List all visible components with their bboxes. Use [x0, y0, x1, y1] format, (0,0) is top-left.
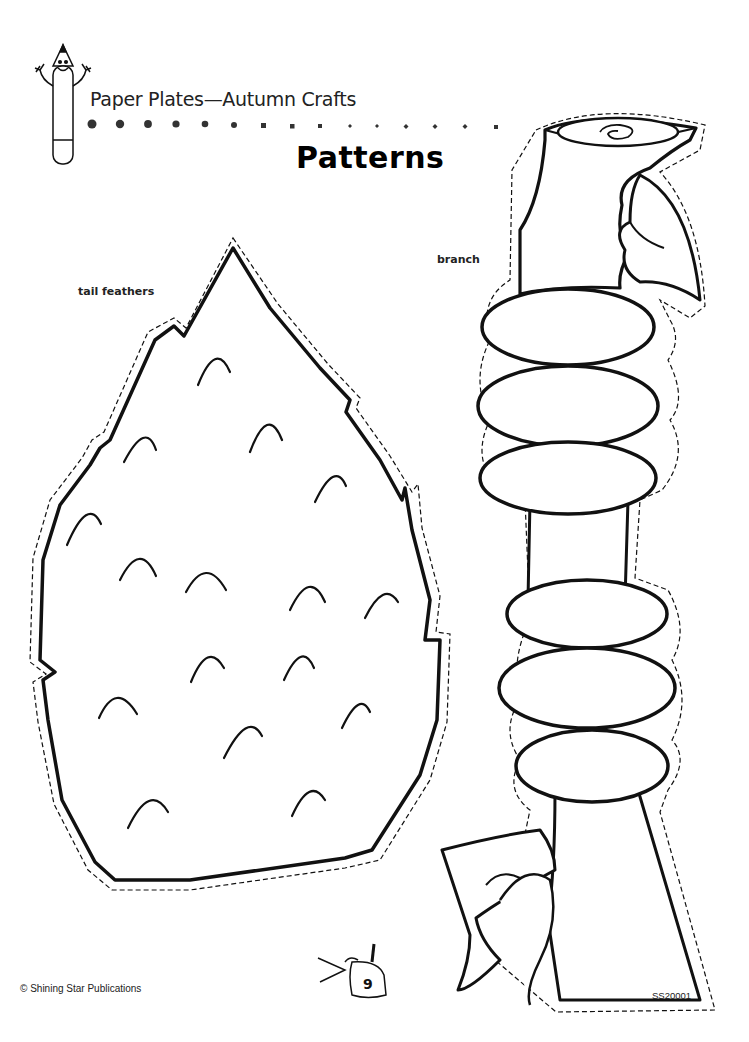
- tail-feathers-pattern: [30, 238, 450, 890]
- pencil-mascot-icon: [35, 45, 91, 164]
- copyright-text: © Shining Star Publications: [20, 983, 141, 994]
- branch-pattern: [442, 114, 715, 1012]
- scissors-glue-icon: [318, 944, 386, 998]
- tail-feathers-label: tail feathers: [78, 285, 154, 298]
- page-title: Patterns: [296, 140, 444, 175]
- product-code: SS20001: [652, 990, 691, 1001]
- page-number: 9: [363, 976, 373, 992]
- dot-row-divider: [88, 120, 499, 130]
- page-subtitle: Paper Plates—Autumn Crafts: [90, 88, 356, 110]
- branch-label: branch: [437, 253, 480, 266]
